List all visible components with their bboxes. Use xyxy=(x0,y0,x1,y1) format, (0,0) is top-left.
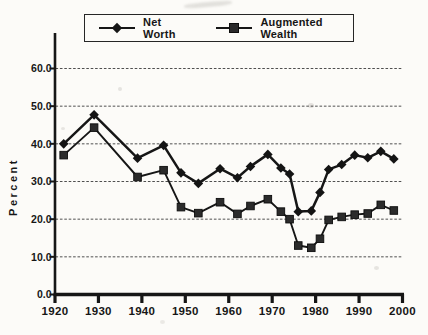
series-line-augmented-wealth xyxy=(64,128,394,248)
legend-label: Net Worth xyxy=(143,16,190,40)
y-tick-label: 10.0 xyxy=(31,251,52,263)
data-point-square-augmented-wealth xyxy=(338,213,346,221)
y-tick-label: 20.0 xyxy=(31,213,52,225)
data-point-square-augmented-wealth xyxy=(247,202,255,210)
y-tick-label: 0.0 xyxy=(37,288,52,300)
data-point-diamond-net-worth xyxy=(363,153,373,163)
x-tick-label: 1950 xyxy=(172,305,199,317)
x-tick-label: 1980 xyxy=(302,305,329,317)
data-point-diamond-net-worth xyxy=(324,165,334,175)
data-point-square-augmented-wealth xyxy=(90,124,98,132)
data-point-square-augmented-wealth xyxy=(325,216,333,224)
y-tick-label: 50.0 xyxy=(31,100,52,112)
data-point-square-augmented-wealth xyxy=(60,151,68,159)
data-point-square-augmented-wealth xyxy=(307,244,315,252)
data-point-square-augmented-wealth xyxy=(264,195,272,203)
line-chart-plot: 0.010.020.030.040.050.060.01920193019401… xyxy=(0,0,428,335)
data-point-square-augmented-wealth xyxy=(177,203,185,211)
y-tick-label: 60.0 xyxy=(31,62,52,74)
data-point-square-augmented-wealth xyxy=(316,235,324,243)
y-tick-label: 40.0 xyxy=(31,138,52,150)
y-axis-title: Percent xyxy=(7,158,19,216)
y-tick-label: 30.0 xyxy=(31,175,52,187)
data-point-square-augmented-wealth xyxy=(351,211,359,219)
data-point-square-augmented-wealth xyxy=(364,210,372,218)
legend-label: Augmented Wealth xyxy=(260,16,353,40)
data-point-square-augmented-wealth xyxy=(195,209,203,217)
x-tick-label: 1960 xyxy=(215,305,242,317)
data-point-square-augmented-wealth xyxy=(134,173,142,181)
x-tick-label: 1940 xyxy=(128,305,155,317)
data-point-diamond-net-worth xyxy=(293,207,303,217)
legend-item-net-worth: Net Worth xyxy=(98,16,190,40)
x-tick-label: 1970 xyxy=(259,305,286,317)
data-point-square-augmented-wealth xyxy=(216,198,224,206)
scanned-line-chart-page: 0.010.020.030.040.050.060.01920193019401… xyxy=(0,0,428,335)
data-point-square-augmented-wealth xyxy=(277,208,285,216)
data-point-diamond-net-worth xyxy=(315,188,325,198)
chart-legend: Net Worth Augmented Wealth xyxy=(84,14,354,42)
data-point-diamond-net-worth xyxy=(306,206,316,216)
legend-item-augmented-wealth: Augmented Wealth xyxy=(215,16,353,40)
data-point-square-augmented-wealth xyxy=(286,215,294,223)
x-tick-label: 2000 xyxy=(389,305,416,317)
data-point-square-augmented-wealth xyxy=(234,210,242,218)
data-point-square-augmented-wealth xyxy=(377,201,385,209)
x-tick-label: 1920 xyxy=(42,305,69,317)
x-tick-label: 1990 xyxy=(346,305,373,317)
diamond-marker-icon xyxy=(98,22,136,34)
data-point-square-augmented-wealth xyxy=(390,207,398,215)
x-tick-label: 1930 xyxy=(85,305,112,317)
data-point-square-augmented-wealth xyxy=(294,242,302,250)
data-point-square-augmented-wealth xyxy=(160,166,168,174)
square-marker-icon xyxy=(215,22,253,34)
